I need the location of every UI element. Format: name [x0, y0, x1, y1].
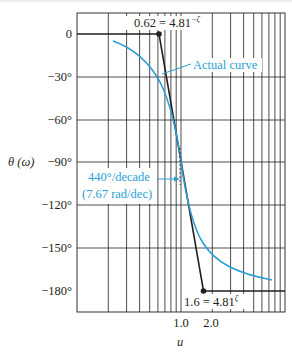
y-tick-neg90: −90°: [47, 155, 72, 169]
y-tick-neg120: −120°: [41, 198, 72, 212]
low-breakpoint-text: 0.62 = 4.81: [134, 16, 191, 30]
bode-phase-chart: 0 −30° −60° −90° −120° −150° −180° θ (ω)…: [0, 0, 292, 354]
x-axis-label: u: [177, 335, 183, 349]
y-tick-neg180: −180°: [41, 284, 72, 298]
breakpoint-high-marker: [201, 288, 207, 294]
high-breakpoint-label: 1.6 = 4.81ζ: [184, 294, 239, 309]
y-axis-label: θ (ω): [8, 155, 34, 169]
low-breakpoint-label: 0.62 = 4.81−ζ: [134, 15, 200, 30]
high-breakpoint-text: 1.6 = 4.81: [184, 295, 235, 309]
y-tick-neg60: −60°: [47, 113, 72, 127]
slope-label-rad: (7.67 rad/dec): [82, 187, 152, 201]
y-tick-0: 0: [66, 27, 72, 41]
x-tick-2: 2.0: [203, 316, 219, 330]
low-breakpoint-exponent: −ζ: [191, 15, 200, 24]
y-tick-neg150: −150°: [41, 241, 72, 255]
slope-arrowhead-icon: [174, 177, 180, 182]
slope-label-deg: 440°/decade: [88, 170, 150, 184]
actual-curve-label: Actual curve: [193, 58, 258, 72]
x-tick-1: 1.0: [173, 316, 189, 330]
breakpoint-low-marker: [156, 31, 162, 37]
y-tick-neg30: −30°: [47, 70, 72, 84]
y-axis-ticks: 0 −30° −60° −90° −120° −150° −180°: [41, 27, 72, 298]
